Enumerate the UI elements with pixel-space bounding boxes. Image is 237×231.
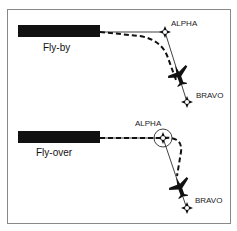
- fly-over-airplane-icon: [166, 174, 194, 201]
- fly-over-bravo-waypoint-icon: [181, 202, 193, 214]
- fly-by-panel: [18, 25, 193, 108]
- fly-by-flight-path: [100, 32, 176, 80]
- fly-over-bravo-label: BRAVO: [195, 196, 222, 205]
- fly-by-airplane-icon: [165, 62, 193, 89]
- fly-by-alpha-waypoint-icon: [159, 26, 171, 38]
- fly-by-bravo-label: BRAVO: [196, 91, 223, 100]
- fly-over-title: Fly-over: [36, 147, 72, 158]
- fly-over-alpha-label: ALPHA: [135, 119, 161, 128]
- fly-over-panel: [18, 129, 194, 214]
- fly-over-alpha-waypoint-icon: [157, 132, 169, 144]
- fly-by-runway-bar: [18, 25, 100, 37]
- fly-by-alpha-label: ALPHA: [171, 19, 197, 28]
- fly-over-track-leg2: [163, 138, 187, 209]
- fly-over-runway-bar: [18, 131, 100, 143]
- fly-by-bravo-waypoint-icon: [181, 96, 193, 108]
- fly-by-title: Fly-by: [43, 42, 70, 53]
